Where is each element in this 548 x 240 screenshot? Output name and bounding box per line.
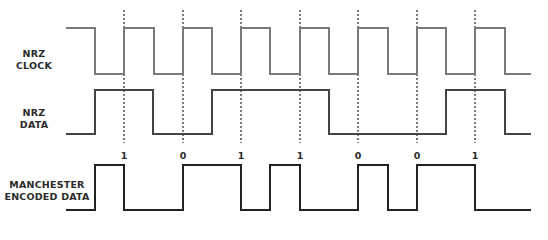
bit-value-0: 1 [121,150,128,161]
nrz-data-waveform [66,90,531,134]
nrz-data-label: NRZ DATA [14,107,54,131]
nrz-clock-label-line1: NRZ [14,48,54,60]
nrz-data-label-line2: DATA [14,119,54,131]
bit-value-3: 1 [297,150,304,161]
bit-value-2: 1 [238,150,245,161]
nrz-clock-label: NRZ CLOCK [14,48,54,72]
manchester-label-line2: ENCODED DATA [2,191,92,203]
bit-value-5: 0 [414,150,421,161]
bit-value-4: 0 [355,150,362,161]
bit-value-6: 1 [472,150,479,161]
manchester-label-line1: MANCHESTER [2,179,92,191]
nrz-clock-label-line2: CLOCK [14,60,54,72]
manchester-label: MANCHESTER ENCODED DATA [2,179,92,203]
manchester-waveform [66,165,531,210]
bit-value-1: 0 [180,150,187,161]
waveforms [66,28,531,210]
nrz-clock-waveform [66,28,531,74]
nrz-data-label-line1: NRZ [14,107,54,119]
